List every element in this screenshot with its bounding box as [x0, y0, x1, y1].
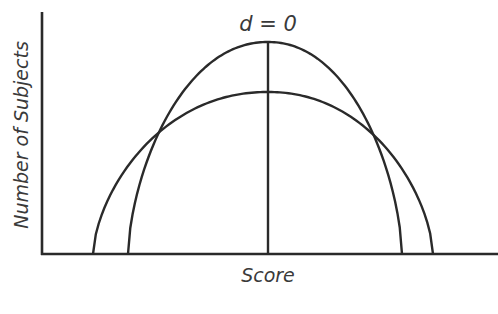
effect-size-diagram: d = 0 Score Number of Subjects	[0, 0, 498, 314]
x-axis-label: Score	[241, 264, 295, 286]
narrow-distribution-curve	[128, 42, 402, 254]
distribution-curves	[93, 42, 433, 254]
chart-title: d = 0	[239, 12, 297, 36]
y-axis-label: Number of Subjects	[10, 41, 32, 229]
